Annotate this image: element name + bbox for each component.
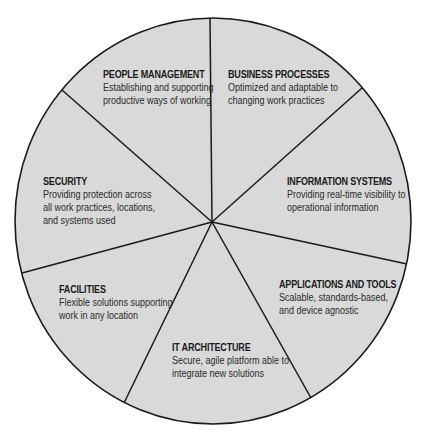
- segment-description-line: Providing protection across: [43, 188, 155, 201]
- segment-description-line: and systems used: [43, 214, 155, 227]
- segment-description-line: Providing real-time visibility to: [287, 188, 406, 201]
- segment-security: SECURITY Providing protection across all…: [43, 175, 168, 227]
- segment-description-line: changing work practices: [228, 94, 338, 107]
- segment-description-line: all work practices, locations,: [43, 201, 155, 214]
- segment-title: FACILITIES: [59, 283, 173, 296]
- segment-description-line: Flexible solutions supporting: [59, 296, 173, 309]
- segment-description-line: operational information: [287, 201, 406, 214]
- segment-description-line: Establishing and supporting: [103, 81, 214, 94]
- segment-applications-and-tools: APPLICATIONS AND TOOLS Scalable, standar…: [279, 278, 409, 317]
- segment-description-line: productive ways of working: [103, 94, 214, 107]
- segment-title: INFORMATION SYSTEMS: [287, 175, 406, 188]
- segment-description-line: work in any location: [59, 309, 173, 322]
- segment-it-architecture: IT ARCHITECTURE Secure, agile platform a…: [172, 341, 302, 380]
- segment-description-line: Secure, agile platform able to: [172, 354, 289, 367]
- segment-title: SECURITY: [43, 175, 155, 188]
- segment-title: BUSINESS PROCESSES: [228, 68, 338, 81]
- segment-description-line: Scalable, standards-based,: [279, 291, 396, 304]
- segment-people-management: PEOPLE MANAGEMENT Establishing and suppo…: [103, 68, 226, 107]
- segment-description-line: and device agnostic: [279, 304, 396, 317]
- segment-information-systems: INFORMATION SYSTEMS Providing real-time …: [287, 175, 419, 214]
- segment-title: PEOPLE MANAGEMENT: [103, 68, 214, 81]
- segment-business-processes: BUSINESS PROCESSES Optimized and adaptab…: [228, 68, 350, 107]
- segment-title: APPLICATIONS AND TOOLS: [279, 278, 396, 291]
- segment-description-line: Optimized and adaptable to: [228, 81, 338, 94]
- segment-description-line: integrate new solutions: [172, 367, 289, 380]
- segment-facilities: FACILITIES Flexible solutions supporting…: [59, 283, 185, 322]
- segment-title: IT ARCHITECTURE: [172, 341, 289, 354]
